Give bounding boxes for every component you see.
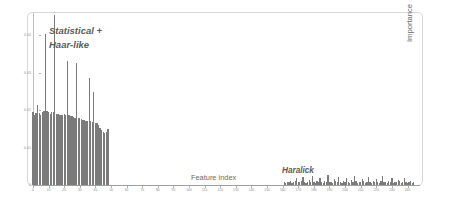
x-tick-label: 10 (47, 188, 51, 192)
x-tick-label: 190 (327, 188, 333, 192)
x-tick-label: 140 (249, 188, 255, 192)
x-tick-mark (111, 186, 112, 188)
x-tick-mark (158, 186, 159, 188)
x-tick-mark (329, 186, 330, 188)
x-tick-mark (173, 186, 174, 188)
x-tick-mark (345, 186, 346, 188)
y-axis-label: Importance (405, 4, 414, 42)
x-tick-mark (33, 186, 34, 188)
x-tick-label: 30 (78, 188, 82, 192)
x-tick-label: 160 (280, 188, 286, 192)
x-tick-mark (189, 186, 190, 188)
x-tick-mark (80, 186, 81, 188)
annotation-statistical-haar: Statistical + Haar-like (49, 24, 102, 52)
x-tick-label: 130 (233, 188, 239, 192)
x-tick-label: 230 (389, 188, 395, 192)
x-tick-mark (267, 186, 268, 188)
x-tick-mark (361, 186, 362, 188)
feature-importance-chart: 00.010.020.030.04 0102030405060708090100… (0, 0, 449, 213)
x-axis-label: Feature index (191, 173, 236, 182)
x-tick-mark (251, 186, 252, 188)
annotation-haralick: Haralick (282, 166, 314, 175)
x-tick-mark (236, 186, 237, 188)
x-tick-label: 180 (311, 188, 317, 192)
x-tick-mark (127, 186, 128, 188)
x-tick-label: 200 (342, 188, 348, 192)
x-tick-label: 50 (109, 188, 113, 192)
x-tick-label: 170 (296, 188, 302, 192)
x-tick-mark (376, 186, 377, 188)
bar (107, 129, 108, 185)
x-tick-label: 120 (217, 188, 223, 192)
bar (413, 182, 414, 185)
x-tick-label: 70 (140, 188, 144, 192)
x-tick-mark (205, 186, 206, 188)
x-tick-label: 40 (94, 188, 98, 192)
x-tick-label: 150 (264, 188, 270, 192)
x-tick-label: 0 (32, 188, 34, 192)
x-tick-mark (142, 186, 143, 188)
x-tick-mark (314, 186, 315, 188)
x-tick-mark (49, 186, 50, 188)
x-tick-label: 80 (156, 188, 160, 192)
x-tick-mark (283, 186, 284, 188)
x-tick-mark (298, 186, 299, 188)
x-tick-label: 60 (125, 188, 129, 192)
x-tick-mark (95, 186, 96, 188)
x-tick-label: 220 (374, 188, 380, 192)
x-tick-label: 240 (405, 188, 411, 192)
x-tick-label: 110 (202, 188, 207, 192)
x-tick-label: 210 (358, 188, 364, 192)
x-tick-mark (64, 186, 65, 188)
x-tick-label: 100 (186, 188, 192, 192)
x-tick-mark (392, 186, 393, 188)
x-tick-label: 20 (62, 188, 66, 192)
x-tick-mark (220, 186, 221, 188)
x-tick-mark (408, 186, 409, 188)
x-tick-label: 90 (172, 188, 176, 192)
